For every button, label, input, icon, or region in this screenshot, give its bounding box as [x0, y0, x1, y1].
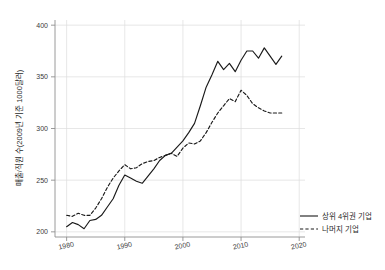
y-tick-label: 250 — [36, 177, 48, 184]
y-axis-title: 매출/직원 수(2009년 기준 1000달러) — [14, 69, 24, 186]
line-chart: 200250300350400 19801990200020102020 매출/… — [0, 0, 385, 270]
y-tick-label: 400 — [36, 22, 48, 29]
legend-label-top-firms: 상위 4위권 기업 — [322, 211, 372, 221]
y-tick-label: 350 — [36, 73, 48, 80]
y-tick-label: 300 — [36, 125, 48, 132]
chart-container: 200250300350400 19801990200020102020 매출/… — [0, 0, 385, 270]
legend-label-other-firms: 나머지 기업 — [322, 225, 359, 234]
y-tick-label: 200 — [36, 228, 48, 235]
